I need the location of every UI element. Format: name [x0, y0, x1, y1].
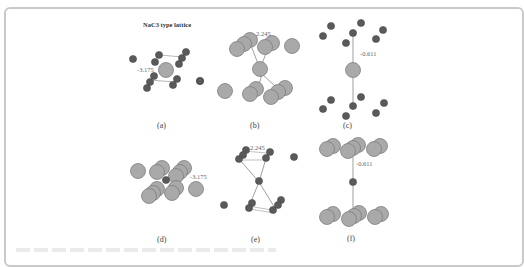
- panel-d: -3.175 (d): [131, 161, 207, 245]
- panel-a-label: (a): [157, 121, 166, 130]
- panel-a-value: -3.175: [137, 66, 154, 73]
- panel-c: -0.611 (c): [319, 19, 387, 130]
- panel-a: -3.175 (a): [129, 48, 203, 130]
- panel-d-label: (d): [157, 235, 167, 244]
- panel-e-label: (e): [251, 235, 260, 244]
- panel-b-value: 2.245: [256, 30, 271, 37]
- panel-c-label: (c): [343, 121, 352, 130]
- panel-e-value: 2.245: [250, 144, 265, 151]
- panel-f: -0.611 (f): [320, 138, 389, 244]
- panel-f-label: (f): [347, 234, 355, 243]
- panel-e: 2.245 (e): [220, 144, 297, 244]
- panel-f-value: -0.611: [356, 160, 373, 167]
- panel-c-value: -0.611: [360, 50, 377, 57]
- panel-b: 2.245 (b): [196, 30, 299, 130]
- panel-d-value: -3.175: [190, 173, 207, 180]
- panel-b-label: (b): [250, 121, 260, 130]
- figure-caption-cut: [16, 248, 276, 252]
